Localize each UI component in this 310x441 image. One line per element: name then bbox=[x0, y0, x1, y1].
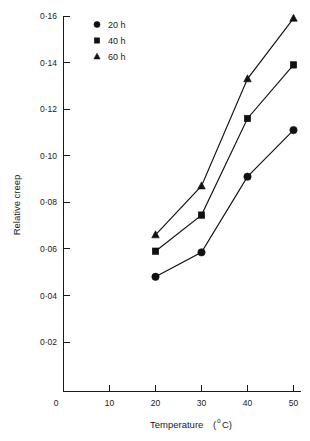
x-tick-label: 20 bbox=[151, 398, 161, 408]
legend-entry-label: 20 h bbox=[108, 20, 126, 30]
y-axis-ticks: 0·020·040·060·080·100·120·140·16 bbox=[40, 11, 70, 347]
circle-marker-icon bbox=[290, 126, 297, 133]
legend-entry-60-h: 60 h bbox=[94, 52, 126, 62]
circle-marker-icon bbox=[198, 249, 205, 256]
x-axis-title: Temperature bbox=[150, 419, 203, 430]
y-tick-label: 0·14 bbox=[40, 58, 57, 68]
square-marker-icon bbox=[198, 212, 204, 218]
y-tick-label: 0·04 bbox=[40, 291, 57, 301]
y-tick-label: 0·08 bbox=[40, 197, 57, 207]
circle-marker-icon bbox=[94, 21, 100, 27]
legend-entry-20-h: 20 h bbox=[94, 20, 126, 30]
triangle-marker-icon bbox=[94, 53, 100, 59]
series-20-h bbox=[152, 126, 297, 280]
chart-figure: 0·020·040·060·080·100·120·140·16 1020304… bbox=[0, 0, 310, 441]
x-axis-ticks: 1020304050 bbox=[105, 385, 299, 408]
series-40-h bbox=[152, 62, 296, 255]
x-tick-label: 40 bbox=[243, 398, 253, 408]
x-axis-title-group: Temperature ( o C) bbox=[150, 417, 232, 430]
legend-entry-label: 40 h bbox=[108, 36, 126, 46]
y-tick-label: 0·12 bbox=[40, 104, 57, 114]
y-axis-title: Relative creep bbox=[11, 175, 22, 236]
square-marker-icon bbox=[152, 248, 158, 254]
y-tick-label: 0·02 bbox=[40, 337, 57, 347]
square-marker-icon bbox=[244, 115, 250, 121]
series-line bbox=[156, 130, 294, 277]
origin-tick-label: 0 bbox=[54, 398, 59, 408]
degree-symbol-icon: o bbox=[217, 417, 221, 424]
y-tick-label: 0·06 bbox=[40, 244, 57, 254]
axes-group bbox=[64, 16, 301, 392]
x-tick-label: 10 bbox=[105, 398, 115, 408]
legend-entry-label: 60 h bbox=[108, 52, 126, 62]
square-marker-icon bbox=[94, 38, 99, 43]
triangle-marker-icon bbox=[290, 14, 298, 21]
circle-marker-icon bbox=[244, 173, 251, 180]
legend-entry-40-h: 40 h bbox=[94, 36, 125, 46]
series-line bbox=[156, 65, 294, 251]
data-series-group bbox=[152, 14, 298, 280]
relative-creep-line-chart: 0·020·040·060·080·100·120·140·16 1020304… bbox=[0, 0, 310, 441]
x-axis-unit-celsius: C) bbox=[222, 419, 232, 430]
circle-marker-icon bbox=[152, 273, 159, 280]
y-tick-label: 0·16 bbox=[40, 11, 57, 21]
square-marker-icon bbox=[290, 62, 296, 68]
series-60-h bbox=[152, 14, 298, 238]
y-tick-label: 0·10 bbox=[40, 151, 57, 161]
x-tick-label: 30 bbox=[197, 398, 207, 408]
series-line bbox=[156, 18, 294, 235]
triangle-marker-icon bbox=[198, 182, 206, 189]
chart-legend: 20 h40 h60 h bbox=[94, 20, 126, 62]
x-tick-label: 50 bbox=[289, 398, 299, 408]
